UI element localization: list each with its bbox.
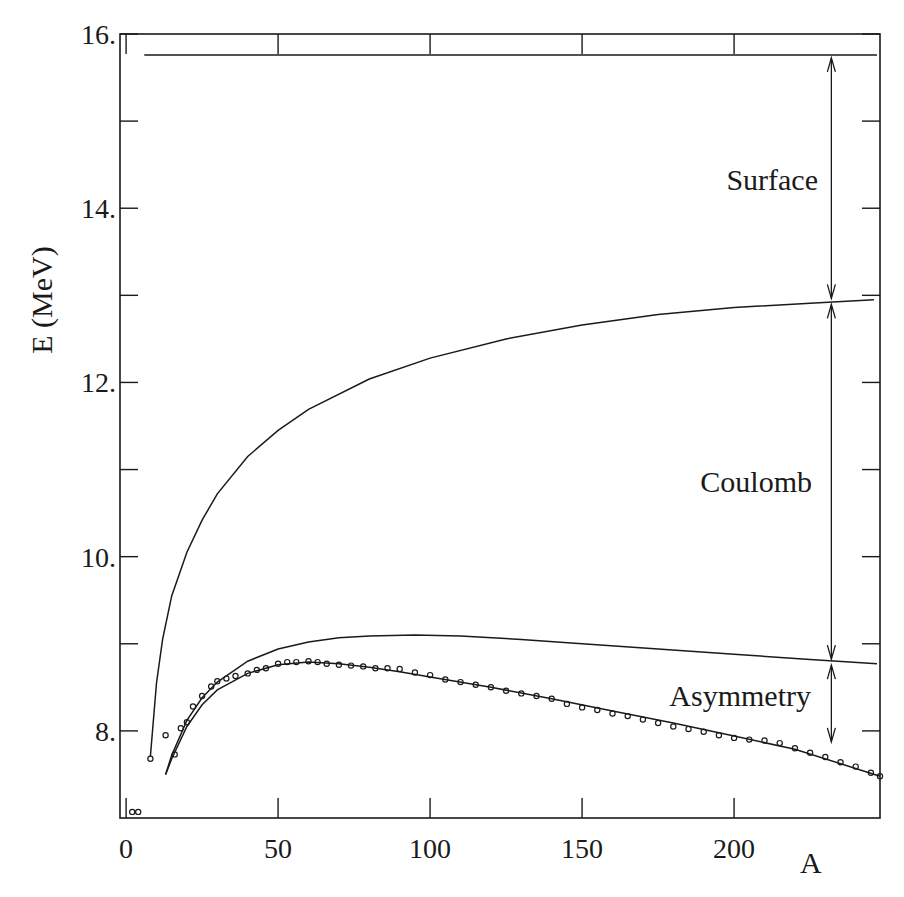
data-point: [163, 733, 168, 738]
data-point: [233, 673, 238, 678]
data-point: [190, 704, 195, 709]
data-point: [148, 756, 153, 761]
data-point: [306, 659, 311, 664]
y-tick-label: 8.: [95, 716, 116, 747]
data-point: [294, 660, 299, 665]
y-tick-label: 10.: [81, 542, 116, 573]
x-axis-title: A: [800, 846, 822, 879]
data-point: [656, 720, 661, 725]
y-axis-title: E (MeV): [25, 246, 59, 353]
surface-label: Surface: [726, 163, 818, 196]
data-point: [224, 676, 229, 681]
data-point: [777, 741, 782, 746]
x-tick-label: 0: [119, 833, 133, 864]
term-arrows: [827, 58, 835, 742]
x-tick-label: 150: [561, 833, 603, 864]
data-point: [136, 809, 141, 814]
data-point: [178, 726, 183, 731]
data-point: [130, 809, 135, 814]
asymmetry-arrow-icon: [827, 665, 835, 742]
binding-energy-chart: 05010015020016.14.12.10.8. A E (MeV) Sur…: [0, 0, 904, 897]
data-point: [580, 705, 585, 710]
coulomb-arrow-icon: [827, 304, 835, 659]
asymmetry-label: Asymmetry: [669, 679, 811, 712]
data-point: [610, 711, 615, 716]
data-point: [671, 724, 676, 729]
x-tick-label: 50: [264, 833, 292, 864]
x-tick-label: 200: [713, 833, 755, 864]
data-point: [397, 666, 402, 671]
data-point: [686, 727, 691, 732]
coulomb-label: Coulomb: [700, 465, 812, 498]
x-tick-label: 100: [409, 833, 451, 864]
surface-arrow-icon: [827, 58, 835, 299]
y-tick-label: 16.: [81, 19, 116, 50]
y-tick-label: 12.: [81, 367, 116, 398]
y-tick-label: 14.: [81, 193, 116, 224]
data-point: [640, 717, 645, 722]
